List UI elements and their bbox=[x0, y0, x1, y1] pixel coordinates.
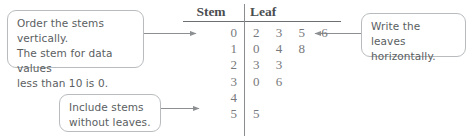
table-row: 4 bbox=[183, 90, 341, 106]
stem-value: 3 bbox=[183, 74, 237, 90]
stem-value: 0 bbox=[183, 25, 237, 41]
table-row: 1 0 4 8 bbox=[183, 41, 341, 57]
stem-value: 2 bbox=[183, 57, 237, 73]
column-header-stem: Stem bbox=[183, 4, 239, 20]
leaf-values: 2 3 5 6 bbox=[253, 25, 334, 41]
leaf-values: 0 4 8 bbox=[253, 41, 312, 57]
leaf-values: 3 3 bbox=[253, 57, 289, 73]
leaf-values: 0 6 bbox=[253, 74, 289, 90]
table-row: 0 2 3 5 6 bbox=[183, 25, 341, 41]
callout-write-leaves: Write the leaves horizontally. bbox=[361, 13, 466, 57]
header-divider-horizontal bbox=[183, 21, 341, 22]
table-row: 5 5 bbox=[183, 106, 341, 122]
plot-rows: 0 2 3 5 6 1 0 4 8 2 3 3 3 0 6 4 5 5 bbox=[183, 25, 341, 122]
callout-order-stems: Order the stems vertically. The stem for… bbox=[7, 10, 144, 68]
column-header-leaf: Leaf bbox=[250, 4, 276, 20]
stem-value: 5 bbox=[183, 106, 237, 122]
stem-and-leaf-plot: Stem Leaf 0 2 3 5 6 1 0 4 8 2 3 3 3 0 6 bbox=[183, 4, 341, 136]
leaf-values: 5 bbox=[253, 106, 266, 122]
plot-header-row: Stem Leaf bbox=[183, 4, 341, 21]
table-row: 3 0 6 bbox=[183, 74, 341, 90]
stem-value: 1 bbox=[183, 41, 237, 57]
stem-and-leaf-figure: Order the stems vertically. The stem for… bbox=[0, 0, 471, 140]
stem-value: 4 bbox=[183, 90, 237, 106]
table-row: 2 3 3 bbox=[183, 57, 341, 73]
callout-include-stems: Include stems without leaves. bbox=[59, 94, 161, 132]
